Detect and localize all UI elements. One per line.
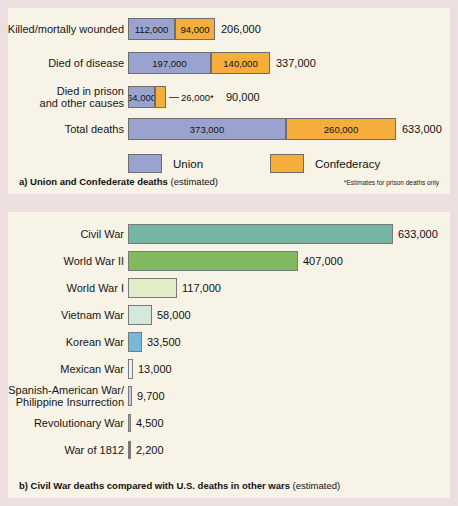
chart-a-row-label: Died in prison and other causes xyxy=(0,85,124,109)
panel-union-confederate-deaths: Killed/mortally wounded112,00094,000206,… xyxy=(8,8,450,194)
legend-item-confederacy: Confederacy xyxy=(270,154,380,173)
panel-b-caption: b) Civil War deaths compared with U.S. d… xyxy=(19,480,340,491)
chart-b-bar xyxy=(128,414,131,432)
chart-b-bar xyxy=(128,251,298,271)
legend-swatch-confederacy xyxy=(270,154,304,173)
panel-war-deaths-comparison: Civil War633,000World War II407,000World… xyxy=(8,212,450,498)
chart-b-row: Spanish-American War/ Philippine Insurre… xyxy=(8,384,450,408)
chart-b-bar xyxy=(128,305,152,325)
legend-label-union: Union xyxy=(173,158,203,170)
chart-a-segment-confederacy: 260,000 xyxy=(286,118,396,140)
chart-b-row: Vietnam War58,000 xyxy=(8,303,450,327)
chart-b-row-label: World War I xyxy=(0,282,124,294)
chart-a-row-label: Total deaths xyxy=(0,123,124,135)
chart-b-bar-value: 58,000 xyxy=(157,309,191,321)
chart-b-row: Revolutionary War4,500 xyxy=(8,411,450,435)
chart-a-segment-confederacy xyxy=(155,86,166,108)
chart-a-segment-union: 373,000 xyxy=(128,118,286,140)
chart-a-row-total: 337,000 xyxy=(276,57,316,69)
panel-a-caption: a) Union and Confederate deaths (estimat… xyxy=(19,176,218,187)
chart-b-row-label: Revolutionary War xyxy=(0,417,124,429)
chart-b-row: Korean War33,500 xyxy=(8,330,450,354)
chart-a-segment-union: 64,000 xyxy=(128,86,155,108)
chart-b-bar xyxy=(128,224,393,244)
chart-b-bar xyxy=(128,278,177,298)
chart-b-row-label: Civil War xyxy=(0,228,124,240)
chart-b-bar-value: 407,000 xyxy=(303,255,343,267)
chart-b-row-label: Spanish-American War/ Philippine Insurre… xyxy=(0,384,124,408)
chart-b-row-label: Vietnam War xyxy=(0,309,124,321)
chart-a-segment-union: 112,000 xyxy=(128,18,175,40)
chart-a-row-label: Died of disease xyxy=(0,57,124,69)
chart-b-row: Civil War633,000 xyxy=(8,222,450,246)
chart-a-row: Died of disease197,000140,000337,000 xyxy=(8,52,450,74)
legend-item-union: Union xyxy=(128,154,203,173)
chart-b-bar-value: 2,200 xyxy=(136,444,164,456)
chart-b-bar xyxy=(128,332,142,352)
chart-b-row: Mexican War13,000 xyxy=(8,357,450,381)
chart-b-row-label: Korean War xyxy=(0,336,124,348)
chart-a-callout-leader-line xyxy=(169,97,179,98)
chart-b-bar-value: 4,500 xyxy=(136,417,164,429)
chart-b-row-label: Mexican War xyxy=(0,363,124,375)
chart-b-bar-value: 13,000 xyxy=(138,363,172,375)
chart-b-bar xyxy=(128,359,133,379)
chart-a-segment-union: 197,000 xyxy=(128,52,211,74)
chart-b-bar-value: 9,700 xyxy=(137,390,165,402)
chart-b-row: World War I117,000 xyxy=(8,276,450,300)
chart-a-row: Killed/mortally wounded112,00094,000206,… xyxy=(8,18,450,40)
legend-swatch-union xyxy=(128,154,162,173)
panel-a-caption-rest: (estimated) xyxy=(168,176,218,187)
chart-a-callout-value: 26,000* xyxy=(181,92,214,103)
chart-a-segment-confederacy: 94,000 xyxy=(175,18,215,40)
chart-b-bar-value: 117,000 xyxy=(182,282,221,294)
chart-a-row-total: 90,000 xyxy=(226,91,260,103)
legend-label-confederacy: Confederacy xyxy=(315,158,380,170)
chart-b-bar xyxy=(128,386,132,406)
chart-a-row: Died in prison and other causes64,00026,… xyxy=(8,86,450,108)
chart-b-row-label: War of 1812 xyxy=(0,444,124,456)
chart-b-row: World War II407,000 xyxy=(8,249,450,273)
chart-a-row-total: 206,000 xyxy=(221,23,261,35)
chart-a-row: Total deaths373,000260,000633,000 xyxy=(8,118,450,140)
chart-b-bar xyxy=(128,441,131,459)
chart-a-row-label: Killed/mortally wounded xyxy=(0,23,124,35)
chart-b-row-label: World War II xyxy=(0,255,124,267)
chart-a-row-total: 633,000 xyxy=(402,123,442,135)
chart-a-segment-confederacy: 140,000 xyxy=(211,52,270,74)
chart-b-row: War of 18122,200 xyxy=(8,438,450,462)
panel-a-footnote: *Estimates for prison deaths only xyxy=(344,179,439,186)
chart-b-bar-value: 33,500 xyxy=(147,336,181,348)
chart-b-bar-value: 633,000 xyxy=(398,228,438,240)
panel-b-caption-rest: (estimated) xyxy=(290,480,340,491)
panel-a-caption-bold: a) Union and Confederate deaths xyxy=(19,176,168,187)
panel-b-caption-bold: b) Civil War deaths compared with U.S. d… xyxy=(19,480,290,491)
